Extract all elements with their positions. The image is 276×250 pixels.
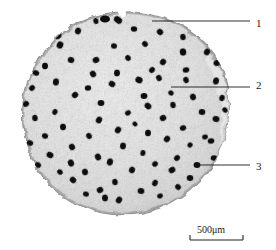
micrograph-canvas — [0, 0, 276, 250]
callout-label-2: 2 — [256, 80, 262, 91]
channel-pore — [100, 15, 110, 22]
scale-bar-label: 500μm — [197, 225, 225, 235]
micrograph-figure: 1 2 3 500μm — [0, 0, 276, 250]
callout-label-1: 1 — [256, 18, 262, 29]
callout-label-3: 3 — [256, 161, 262, 172]
